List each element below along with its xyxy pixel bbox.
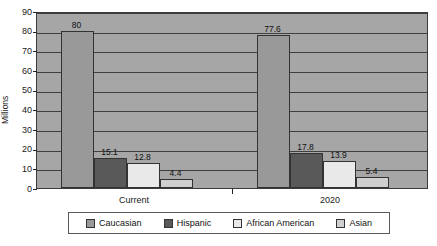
legend-swatch-icon: [164, 219, 173, 228]
bar: [94, 158, 127, 188]
chart-legend: CaucasianHispanicAfrican AmericanAsian: [68, 212, 390, 234]
y-tick-label: 60: [12, 67, 32, 76]
y-tick-label: 90: [12, 8, 32, 17]
x-axis-category-label: 2020: [232, 195, 428, 205]
y-tick-mark: [33, 71, 37, 72]
y-axis-title: Millions: [0, 80, 12, 140]
bar-value-label: 77.6: [251, 25, 294, 34]
legend-label: Asian: [349, 218, 372, 228]
legend-label: Caucasian: [99, 218, 142, 228]
bar: [61, 31, 94, 188]
y-tick-mark: [33, 150, 37, 151]
gridline: [37, 33, 427, 34]
legend-item: African American: [233, 218, 314, 228]
legend-item: Hispanic: [164, 218, 212, 228]
y-tick-label: 20: [12, 145, 32, 154]
y-tick-mark: [33, 12, 37, 13]
bar-chart-figure: Millions 0102030405060708090 CaucasianHi…: [0, 0, 437, 246]
y-tick-label: 10: [12, 165, 32, 174]
gridline: [37, 52, 427, 53]
bar-value-label: 13.9: [317, 151, 360, 160]
y-tick-label: 30: [12, 126, 32, 135]
bar: [257, 35, 290, 188]
y-axis-tick-labels: 0102030405060708090: [12, 12, 32, 189]
legend-item: Caucasian: [86, 218, 142, 228]
gridline: [37, 131, 427, 132]
y-tick-label: 40: [12, 106, 32, 115]
gridline: [37, 72, 427, 73]
y-tick-mark: [33, 91, 37, 92]
y-tick-label: 80: [12, 27, 32, 36]
bar-value-label: 80: [55, 21, 98, 30]
x-axis-tick-mark: [232, 189, 233, 194]
legend-label: African American: [246, 218, 314, 228]
y-tick-mark: [33, 169, 37, 170]
y-tick-mark: [33, 51, 37, 52]
y-tick-mark: [33, 110, 37, 111]
y-tick-label: 70: [12, 47, 32, 56]
gridline: [37, 111, 427, 112]
bar-value-label: 4.4: [154, 169, 197, 178]
legend-swatch-icon: [336, 219, 345, 228]
bar-value-label: 12.8: [121, 153, 164, 162]
bar: [160, 179, 193, 188]
y-tick-mark: [33, 130, 37, 131]
y-tick-mark: [33, 189, 37, 190]
bar-value-label: 5.4: [350, 167, 393, 176]
legend-label: Hispanic: [177, 218, 212, 228]
legend-swatch-icon: [233, 219, 242, 228]
gridline: [37, 13, 427, 14]
y-tick-mark: [33, 32, 37, 33]
plot-area: [36, 12, 428, 189]
x-axis-category-label: Current: [36, 195, 232, 205]
bar: [356, 177, 389, 188]
gridline: [37, 92, 427, 93]
y-tick-label: 50: [12, 86, 32, 95]
legend-swatch-icon: [86, 219, 95, 228]
y-tick-label: 0: [12, 185, 32, 194]
legend-item: Asian: [336, 218, 372, 228]
